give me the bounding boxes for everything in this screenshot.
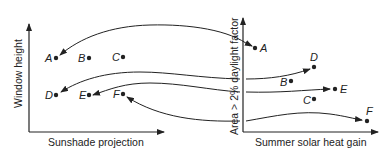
curve-a-left — [60, 25, 250, 55]
left-point-c — [121, 55, 125, 59]
right-x-axis-label: Summer solar heat gain — [255, 136, 367, 148]
right-label-d: D — [310, 51, 318, 63]
right-point-c — [312, 97, 316, 101]
curve-f-right — [246, 113, 362, 121]
right-point-d — [312, 65, 316, 69]
left-label-d: D — [45, 89, 53, 101]
left-axes — [29, 24, 164, 132]
right-points: A D B E C F — [253, 42, 374, 123]
right-label-f: F — [366, 105, 374, 117]
right-point-e — [333, 87, 337, 91]
right-point-b — [289, 79, 293, 83]
left-label-f: F — [113, 88, 121, 100]
left-label-c: C — [112, 51, 120, 63]
left-points: A B C D E F — [44, 51, 125, 101]
left-point-f — [121, 92, 125, 96]
design-tradeoff-diagram: Sunshade projection Window height A B C … — [0, 0, 386, 154]
left-x-axis-label: Sunshade projection — [48, 136, 144, 148]
left-point-e — [87, 93, 91, 97]
right-point-a — [253, 46, 257, 50]
left-y-axis-label: Window height — [12, 39, 24, 108]
left-point-b — [87, 56, 91, 60]
curve-f-left — [127, 97, 240, 121]
left-label-a: A — [44, 52, 52, 64]
right-label-a: A — [259, 42, 267, 54]
curve-d-right — [246, 69, 310, 79]
right-axes — [243, 18, 378, 132]
right-label-e: E — [340, 83, 348, 95]
left-point-d — [54, 93, 58, 97]
left-label-e: E — [79, 89, 87, 101]
curve-e-right — [246, 89, 330, 92]
mapping-curves — [60, 25, 362, 121]
right-label-c: C — [303, 94, 311, 106]
right-point-f — [365, 119, 369, 123]
right-label-b: B — [280, 76, 287, 88]
left-point-a — [54, 56, 58, 60]
left-label-b: B — [78, 52, 85, 64]
